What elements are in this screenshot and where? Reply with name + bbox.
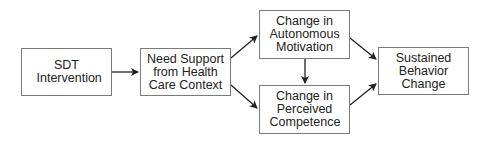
- node-label: Change in Autonomous Motivation: [270, 15, 340, 54]
- node-perceived-competence: Change in Perceived Competence: [259, 85, 350, 134]
- node-label: Need Support from Health Care Context: [142, 53, 230, 92]
- node-label: SDT Intervention: [37, 59, 97, 85]
- arrow-need-to-autonomous: [231, 36, 257, 58]
- arrow-competence-to-sustained: [350, 84, 376, 105]
- node-autonomous-motivation: Change in Autonomous Motivation: [259, 10, 350, 59]
- node-sdt-intervention: SDT Intervention: [21, 48, 112, 96]
- node-label: Sustained Behavior Change: [380, 52, 468, 91]
- arrow-need-to-competence: [231, 85, 257, 108]
- node-sustained-behavior-change: Sustained Behavior Change: [378, 47, 469, 95]
- arrow-autonomous-to-sustained: [350, 38, 376, 59]
- node-need-support: Need Support from Health Care Context: [140, 48, 231, 96]
- node-label: Change in Perceived Competence: [270, 90, 340, 129]
